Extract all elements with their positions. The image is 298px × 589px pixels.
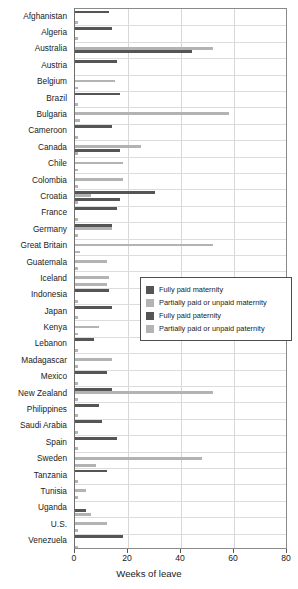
bar-group <box>75 370 286 386</box>
bar-group <box>75 206 286 222</box>
bar-group <box>75 452 286 468</box>
bar-group <box>75 484 286 500</box>
bar-group <box>75 534 286 550</box>
bar <box>75 414 78 417</box>
legend-label: Fully paid maternity <box>159 286 223 293</box>
bar <box>75 289 109 292</box>
bar-group <box>75 91 286 107</box>
bar <box>75 87 78 90</box>
y-axis-label: Great Britain <box>20 241 67 249</box>
y-axis-label: Uganda <box>38 503 67 511</box>
bar <box>75 185 78 188</box>
bar-group <box>75 402 286 418</box>
y-axis-label: Austria <box>41 61 67 69</box>
bar-group <box>75 157 286 173</box>
legend-swatch-icon <box>146 325 154 333</box>
bar <box>75 37 78 40</box>
bar <box>75 169 78 172</box>
y-axis-label: Spain <box>46 438 67 446</box>
y-axis-label: Germany <box>33 225 67 233</box>
bar-group <box>75 517 286 533</box>
y-axis-label: France <box>41 208 67 216</box>
bar <box>75 509 86 512</box>
bar-group <box>75 435 286 451</box>
y-axis-label: Philippines <box>27 405 67 413</box>
bar <box>75 178 123 181</box>
bar-group <box>75 9 286 25</box>
y-axis-label: New Zealand <box>18 389 67 397</box>
bar <box>75 382 78 385</box>
bar <box>75 47 213 50</box>
y-axis-label: Madagascar <box>21 356 67 364</box>
y-axis-label: Guatemala <box>26 258 67 266</box>
bar-group <box>75 501 286 517</box>
bar <box>75 489 86 492</box>
bar <box>75 80 115 83</box>
bar <box>75 119 80 122</box>
bar <box>75 404 99 407</box>
bar <box>75 198 120 201</box>
bar-group <box>75 75 286 91</box>
bar <box>75 112 229 115</box>
bar-group <box>75 255 286 271</box>
y-axis-label: Kenya <box>43 323 67 331</box>
bar <box>75 457 202 460</box>
bar <box>75 283 107 286</box>
y-axis-label: Saudi Arabia <box>20 421 67 429</box>
bar <box>75 358 112 361</box>
x-tick-label: 80 <box>281 553 291 563</box>
y-axis-label: Belgium <box>37 77 67 85</box>
bar <box>75 522 107 525</box>
bar <box>75 316 78 319</box>
bar <box>75 437 117 440</box>
bar <box>75 260 107 263</box>
y-axis-label: Brazil <box>46 94 67 102</box>
bar <box>75 60 117 63</box>
bar-group <box>75 189 286 205</box>
bar-group <box>75 25 286 41</box>
legend-item: Partially paid or unpaid paternity <box>146 322 286 335</box>
bar-group <box>75 386 286 402</box>
bar <box>75 349 78 352</box>
bar <box>75 529 78 532</box>
bar <box>75 333 78 336</box>
bar <box>75 371 107 374</box>
bar <box>75 447 78 450</box>
legend-item: Partially paid or unpaid maternity <box>146 296 286 309</box>
bar-group <box>75 353 286 369</box>
bar-group <box>75 140 286 156</box>
y-axis-label: Cameroon <box>28 126 67 134</box>
bar-group <box>75 468 286 484</box>
bar <box>75 365 78 368</box>
bar <box>75 145 141 148</box>
bar <box>75 93 120 96</box>
legend-item: Fully paid maternity <box>146 283 286 296</box>
bar <box>75 338 94 341</box>
x-tick-label: 60 <box>228 553 238 563</box>
y-axis-label: Algeria <box>41 28 67 36</box>
legend-label: Partially paid or unpaid paternity <box>159 325 265 332</box>
bar <box>75 234 78 237</box>
legend-swatch-icon <box>146 312 154 320</box>
bar <box>75 535 123 538</box>
y-axis-label: Japan <box>44 307 67 315</box>
bar-group <box>75 42 286 58</box>
bar <box>75 244 213 247</box>
legend-swatch-icon <box>146 286 154 294</box>
y-axis-label: U.S. <box>51 520 67 528</box>
legend-item: Fully paid paternity <box>146 309 286 322</box>
y-axis-label: Colombia <box>32 176 67 184</box>
bar <box>75 326 99 329</box>
bar-group <box>75 239 286 255</box>
bar <box>75 431 78 434</box>
x-axis-ticks: 020406080 <box>74 549 287 563</box>
bar <box>75 391 213 394</box>
bar <box>75 50 192 53</box>
bar <box>75 194 91 197</box>
bar-group <box>75 419 286 435</box>
bar <box>75 207 117 210</box>
bar <box>75 103 78 106</box>
y-axis-label: Croatia <box>40 192 67 200</box>
bar <box>75 398 78 401</box>
bar <box>75 27 112 30</box>
